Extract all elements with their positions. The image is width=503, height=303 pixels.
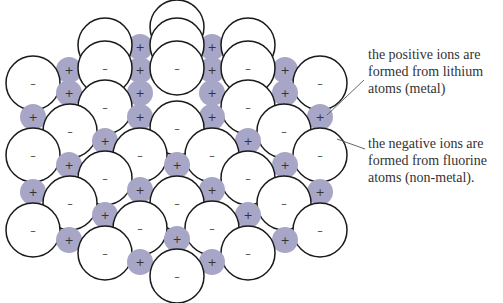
annotation-positive-ions: the positive ions are formed from lithiu… bbox=[368, 46, 483, 97]
annotation-line: atoms (metal) bbox=[368, 80, 483, 97]
minus-sign: – bbox=[245, 62, 251, 75]
negative-ion: – bbox=[150, 249, 204, 303]
minus-sign: – bbox=[281, 125, 287, 138]
minus-sign: – bbox=[102, 247, 108, 260]
positive-ion: + bbox=[272, 152, 298, 178]
plus-sign: + bbox=[64, 87, 73, 100]
annotation-line: the positive ions are bbox=[368, 46, 483, 63]
minus-sign: – bbox=[209, 149, 215, 162]
plus-sign: + bbox=[100, 209, 109, 222]
plus-sign: + bbox=[172, 233, 181, 246]
minus-sign: – bbox=[174, 270, 180, 283]
plus-sign: + bbox=[135, 87, 144, 100]
positive-ion: + bbox=[20, 104, 46, 130]
minus-sign: – bbox=[281, 197, 287, 210]
negative-ion: – bbox=[150, 41, 204, 95]
plus-sign: + bbox=[315, 111, 324, 124]
positive-ion: + bbox=[164, 226, 190, 252]
minus-sign: – bbox=[102, 101, 108, 114]
plus-sign: + bbox=[28, 186, 37, 199]
negative-ion: – bbox=[6, 203, 60, 257]
minus-sign: – bbox=[137, 149, 143, 162]
minus-sign: – bbox=[30, 77, 36, 90]
minus-sign: – bbox=[102, 62, 108, 75]
positive-ion: + bbox=[20, 179, 46, 205]
minus-sign: – bbox=[137, 222, 143, 235]
plus-sign: + bbox=[135, 111, 144, 124]
plus-sign: + bbox=[135, 256, 144, 269]
plus-sign: + bbox=[64, 159, 73, 172]
plus-sign: + bbox=[207, 256, 216, 269]
minus-sign: – bbox=[67, 125, 73, 138]
minus-sign: – bbox=[317, 77, 323, 90]
minus-sign: – bbox=[317, 224, 323, 237]
minus-sign: – bbox=[245, 101, 251, 114]
plus-sign: + bbox=[207, 87, 216, 100]
plus-sign: + bbox=[64, 64, 73, 77]
annotation-line: atoms (non-metal). bbox=[368, 169, 487, 186]
plus-sign: + bbox=[207, 41, 216, 54]
plus-sign: + bbox=[207, 111, 216, 124]
negative-ion: – bbox=[6, 56, 60, 110]
plus-sign: + bbox=[243, 209, 252, 222]
plus-sign: + bbox=[64, 234, 73, 247]
plus-sign: + bbox=[100, 135, 109, 148]
plus-sign: + bbox=[135, 64, 144, 77]
positive-ion: + bbox=[272, 80, 298, 106]
plus-sign: + bbox=[280, 159, 289, 172]
annotation-negative-ions: the negative ions are formed from fluori… bbox=[368, 135, 487, 186]
minus-sign: – bbox=[30, 149, 36, 162]
plus-sign: + bbox=[28, 111, 37, 124]
positive-ion: + bbox=[127, 249, 153, 275]
minus-sign: – bbox=[174, 197, 180, 210]
plus-sign: + bbox=[280, 234, 289, 247]
negative-ion: – bbox=[293, 56, 347, 110]
plus-sign: + bbox=[280, 87, 289, 100]
negative-ion: – bbox=[221, 226, 275, 280]
plus-sign: + bbox=[280, 64, 289, 77]
plus-sign: + bbox=[135, 41, 144, 54]
plus-sign: + bbox=[207, 64, 216, 77]
minus-sign: – bbox=[245, 172, 251, 185]
positive-ion: + bbox=[164, 152, 190, 178]
plus-sign: + bbox=[135, 184, 144, 197]
positive-ion: + bbox=[127, 104, 153, 130]
positive-ion: + bbox=[272, 227, 298, 253]
annotation-line: the negative ions are bbox=[368, 135, 487, 152]
negative-ion: – bbox=[78, 226, 132, 280]
minus-sign: – bbox=[317, 149, 323, 162]
plus-sign: + bbox=[172, 159, 181, 172]
annotation-line: formed from fluorine bbox=[368, 152, 487, 169]
plus-sign: + bbox=[315, 186, 324, 199]
minus-sign: – bbox=[174, 62, 180, 75]
plus-sign: + bbox=[243, 135, 252, 148]
minus-sign: – bbox=[30, 224, 36, 237]
annotation-line: formed from lithium bbox=[368, 63, 483, 80]
negative-ion: – bbox=[293, 128, 347, 182]
minus-sign: – bbox=[174, 122, 180, 135]
negative-ion: – bbox=[6, 128, 60, 182]
minus-sign: – bbox=[67, 197, 73, 210]
negative-ion: – bbox=[293, 203, 347, 257]
minus-sign: – bbox=[102, 172, 108, 185]
minus-sign: – bbox=[245, 247, 251, 260]
positive-ion: + bbox=[127, 177, 153, 203]
plus-sign: + bbox=[207, 184, 216, 197]
minus-sign: – bbox=[209, 222, 215, 235]
